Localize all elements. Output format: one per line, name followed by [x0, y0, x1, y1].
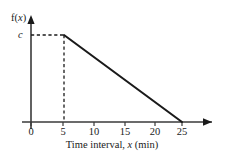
- function-line-segment: [64, 35, 182, 122]
- y-tick-label-c: c: [18, 30, 23, 41]
- plot-area: [0, 0, 225, 159]
- x-axis-label-suffix: (min): [132, 139, 158, 150]
- x-tick-label-10: 10: [89, 127, 100, 138]
- figure-container: f(x) c 0 5 10 15 20 25 Time interval, x …: [0, 0, 225, 159]
- x-tick-label-15: 15: [120, 127, 131, 138]
- x-tick-label-25: 25: [177, 127, 188, 138]
- y-axis-label-prefix: f(: [11, 12, 18, 23]
- x-axis-label-prefix: Time interval,: [66, 139, 128, 150]
- x-tick-label-0: 0: [28, 127, 33, 138]
- x-axis-arrow-icon: [203, 118, 212, 126]
- y-axis-arrow-icon: [27, 15, 34, 24]
- x-tick-label-20: 20: [150, 127, 161, 138]
- x-tick-label-5: 5: [60, 127, 65, 138]
- x-axis-label: Time interval, x (min): [66, 140, 158, 151]
- y-axis-label: f(x): [11, 13, 26, 24]
- y-axis-label-suffix: ): [23, 12, 27, 23]
